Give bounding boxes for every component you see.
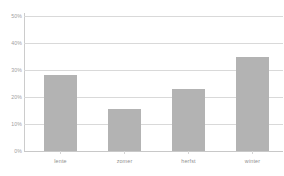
y-tick-label-10: 10% [0, 121, 22, 127]
y-tick-label-0: 0% [0, 148, 22, 154]
bar-chart: 0% 10% 20% 30% 40% 50% lente zomer herfs… [0, 0, 284, 176]
bar-winter[interactable] [236, 57, 269, 152]
x-tick-label-herfst: herfst [158, 158, 219, 165]
x-tick-label-zomer: zomer [94, 158, 155, 165]
gridline-baseline-0 [24, 151, 283, 152]
x-tick-label-lente: lente [30, 158, 91, 165]
bar-herfst[interactable] [172, 89, 205, 151]
bar-zomer[interactable] [108, 109, 141, 151]
bars-layer [24, 16, 283, 151]
y-tick-label-30: 30% [0, 67, 22, 73]
y-axis-labels: 0% 10% 20% 30% 40% 50% [0, 16, 22, 151]
bar-lente[interactable] [44, 75, 77, 151]
y-tick-label-40: 40% [0, 40, 22, 46]
x-tick-label-winter: winter [222, 158, 283, 165]
x-axis-labels: lente zomer herfst winter [24, 154, 283, 170]
y-tick-label-50: 50% [0, 13, 22, 19]
y-tick-label-20: 20% [0, 94, 22, 100]
